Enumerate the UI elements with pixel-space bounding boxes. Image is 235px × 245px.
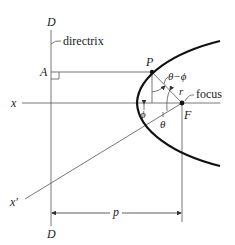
parabola-diagram: D D directrix A x x′ P F r focus θ−ϕ θ ϕ…	[0, 0, 235, 245]
point-f	[180, 101, 185, 106]
right-angle-marker	[51, 72, 59, 79]
point-a-label: A	[39, 65, 48, 79]
angle-theta-minus-phi-arc	[152, 86, 165, 92]
x-axis-label: x	[10, 96, 17, 110]
x-prime-axis	[25, 103, 182, 199]
focus-leader	[185, 95, 194, 101]
angle-theta-arc	[167, 90, 170, 111]
directrix-leader	[51, 41, 61, 44]
directrix-top-label: D	[46, 15, 56, 29]
angle-theta-label: θ	[160, 118, 166, 130]
point-p	[150, 70, 154, 74]
directrix-bottom-label: D	[46, 227, 56, 241]
x-prime-label: x′	[9, 195, 18, 209]
focus-label: focus	[196, 87, 222, 101]
directrix-label: directrix	[63, 34, 104, 48]
radius-label: r	[179, 85, 184, 97]
angle-theta-minus-phi-label: θ−ϕ	[168, 70, 187, 82]
angle-phi-label: ϕ	[140, 108, 146, 120]
distance-p-label: p	[112, 205, 119, 219]
point-f-label: F	[183, 108, 192, 122]
point-p-label: P	[145, 55, 154, 69]
